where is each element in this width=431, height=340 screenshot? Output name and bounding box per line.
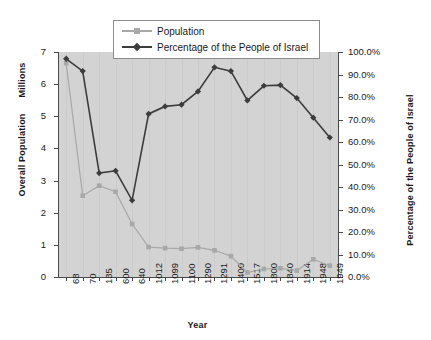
data-point-marker: [130, 222, 135, 227]
data-point-marker: [179, 246, 184, 251]
data-point-marker: [96, 170, 102, 176]
legend-marker-square-icon: [134, 28, 140, 34]
data-point-marker: [129, 197, 135, 203]
data-point-marker: [278, 266, 283, 271]
data-point-marker: [328, 263, 333, 268]
legend-item-population: Population: [122, 24, 204, 38]
y-axis-right-title: Percentage of the People of Israel: [405, 80, 415, 260]
data-point-marker: [146, 111, 152, 117]
data-point-marker: [229, 254, 234, 259]
data-point-marker: [245, 270, 250, 275]
data-point-marker: [295, 268, 300, 273]
data-point-marker: [228, 68, 234, 74]
data-point-marker: [113, 190, 118, 195]
data-point-marker: [311, 257, 316, 262]
chart-container: 01234567 0.0%10.0%20.0%30.0%40.0%50.0%60…: [0, 0, 431, 340]
data-point-marker: [212, 248, 217, 253]
data-point-marker: [97, 183, 102, 188]
legend-marker-diamond-icon: [133, 43, 141, 51]
chart-legend: Population Percentage of the People of I…: [113, 20, 320, 59]
series-line-percentage: [66, 59, 330, 201]
legend-swatch-percentage: [122, 42, 152, 52]
data-point-marker: [113, 168, 119, 174]
legend-swatch-population: [122, 26, 152, 36]
data-point-marker: [146, 245, 151, 250]
data-point-marker: [162, 103, 168, 109]
data-point-marker: [80, 193, 85, 198]
data-point-marker: [262, 267, 267, 272]
legend-item-percentage: Percentage of the People of Israel: [122, 40, 308, 54]
series-line-population: [66, 63, 330, 272]
legend-label-percentage: Percentage of the People of Israel: [157, 42, 308, 53]
y-axis-left-units-label: Millions: [17, 50, 27, 110]
legend-label-population: Population: [157, 26, 204, 37]
data-point-marker: [196, 245, 201, 250]
data-point-marker: [163, 246, 168, 251]
x-axis-title: Year: [0, 320, 395, 330]
